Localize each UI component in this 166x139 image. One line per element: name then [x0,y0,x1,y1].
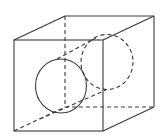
tangent-line-bottom [40,90,106,119]
cube-edge-top-left [14,16,65,40]
cube-front-face [14,40,103,131]
front-circle [36,59,87,113]
cube-edge-top-right [103,16,154,40]
cube-hidden-edge-bottom-left [14,107,65,131]
cube-edge-bottom-right [103,107,154,131]
tangent-line-top [57,40,92,59]
cube-with-circles-diagram [0,0,166,139]
back-circle [81,35,133,90]
